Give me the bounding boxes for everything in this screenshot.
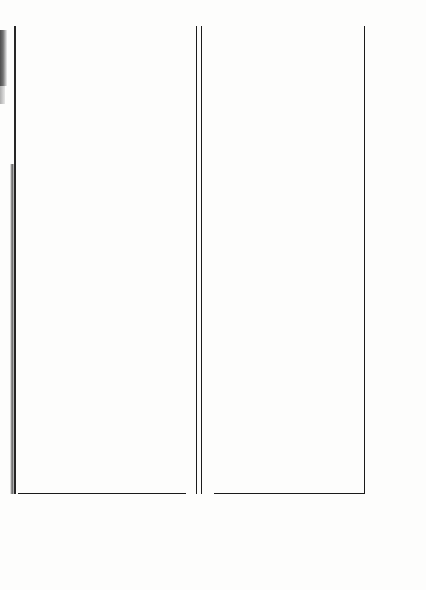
top-panel-plot-area <box>18 26 186 494</box>
figure-body <box>0 0 426 590</box>
panel-separator-rule <box>196 26 202 494</box>
caption-line-1 <box>382 30 396 550</box>
figure-caption <box>382 30 396 550</box>
rotated-figure-container <box>0 0 426 590</box>
x-axis-line <box>364 26 365 494</box>
bottom-panel-y-axis-line <box>214 493 364 494</box>
panel-top-border-rule <box>14 26 16 494</box>
top-panel-y-axis-line <box>18 493 186 494</box>
covered-interest-differential-line-svg <box>18 26 186 494</box>
scanned-page <box>0 0 426 590</box>
foreign-holdings-step-svg <box>214 26 364 494</box>
bottom-panel-plot-area <box>214 26 364 494</box>
